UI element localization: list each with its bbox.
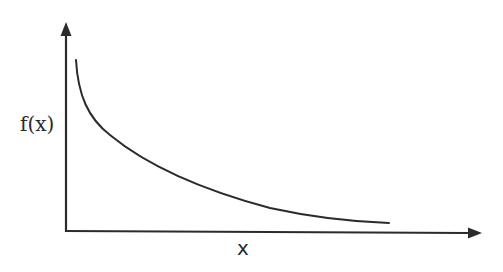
function-diagram: f(x) x	[0, 0, 503, 272]
plot-area	[0, 0, 503, 272]
decay-curve	[76, 60, 389, 223]
x-axis-label: x	[237, 236, 249, 260]
y-axis-label: f(x)	[20, 112, 54, 136]
x-axis-arrow-icon	[468, 228, 482, 239]
y-axis-arrow-icon	[61, 22, 72, 36]
x-axis	[65, 231, 470, 233]
